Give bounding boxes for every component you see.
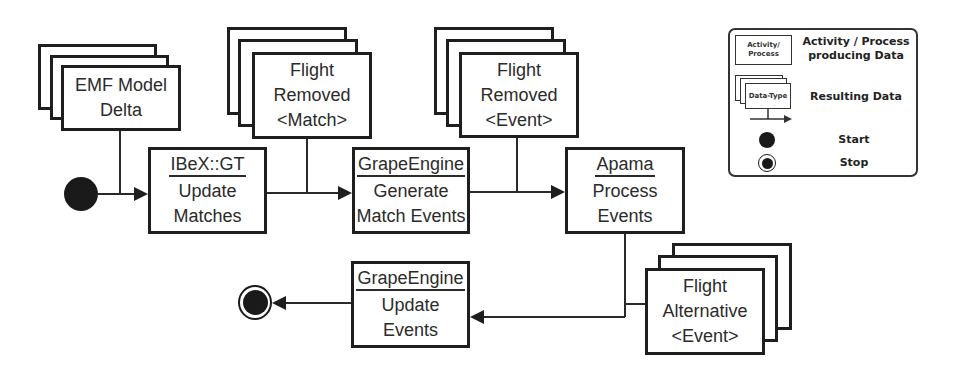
legend-start-icon — [759, 132, 775, 148]
data-label-line: Removed — [480, 83, 557, 108]
legend-data-description: Resulting Data — [796, 90, 916, 104]
data-flight-alternative-event: Flight Alternative <Event> — [645, 268, 765, 355]
legend-stop-core — [762, 158, 773, 169]
activity-tool-name: IBeX::GT — [169, 154, 245, 177]
activity-label-line: Update — [381, 293, 439, 318]
data-emf-model-delta: EMF Model Delta — [61, 65, 181, 131]
activity-diagram: EMF Model Delta Flight Removed <Match> F… — [0, 0, 958, 376]
data-label-line: <Match> — [277, 108, 347, 133]
data-flight-removed-event: Flight Removed <Event> — [459, 52, 579, 138]
activity-tool-name: GrapeEngine — [357, 154, 465, 177]
activity-label-line: Match Events — [356, 204, 465, 229]
data-label-line: Flight — [290, 58, 334, 83]
data-label-line: Alternative — [662, 299, 747, 324]
arrowhead-right-icon — [551, 185, 565, 199]
legend-stop-icon — [758, 154, 776, 172]
arrowhead-left-icon — [470, 310, 484, 324]
data-label-line: <Event> — [671, 324, 738, 349]
legend: Activity/ Process Activity / Process pro… — [728, 28, 918, 177]
activity-label-line: Update — [178, 179, 236, 204]
activity-label-line: Events — [597, 204, 652, 229]
activity-label-line: Events — [383, 318, 438, 343]
stop-node-icon — [238, 285, 272, 320]
activity-ibex-update-matches: IBeX::GT Update Matches — [148, 147, 267, 234]
activity-label-line: Matches — [173, 204, 241, 229]
data-label-line: Flight — [683, 274, 727, 299]
arrowhead-right-icon — [134, 187, 148, 201]
activity-tool-name: Apama — [595, 154, 654, 177]
data-label-line: Removed — [273, 83, 350, 108]
legend-start-label: Start — [824, 133, 884, 147]
activity-label-line: Generate — [373, 179, 448, 204]
data-label-line: Flight — [497, 58, 541, 83]
activity-tool-name: GrapeEngine — [356, 268, 464, 291]
data-flight-removed-match: Flight Removed <Match> — [252, 52, 372, 139]
activity-grapeengine-update-events: GrapeEngine Update Events — [351, 261, 470, 348]
data-label-line: <Event> — [485, 108, 552, 133]
arrowhead-left-icon — [272, 296, 286, 310]
arrowhead-right-icon — [338, 186, 352, 200]
data-label-line: EMF Model — [75, 73, 167, 98]
stop-node-core — [243, 290, 268, 315]
data-label-line: Delta — [100, 98, 142, 123]
legend-stop-label: Stop — [824, 156, 884, 170]
activity-grapeengine-generate-match-events: GrapeEngine Generate Match Events — [352, 147, 470, 234]
start-node-icon — [64, 177, 98, 211]
activity-label-line: Process — [592, 179, 657, 204]
activity-apama-process-events: Apama Process Events — [565, 147, 685, 234]
